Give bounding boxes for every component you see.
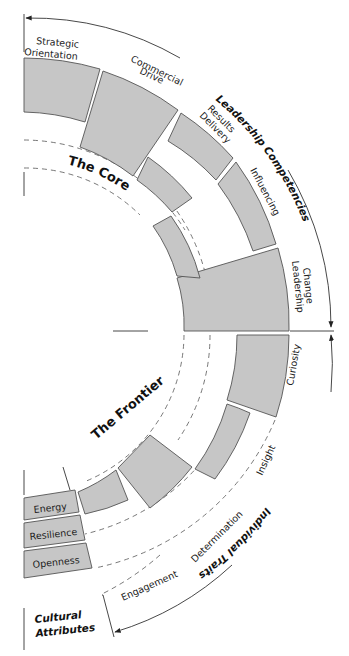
block-strategic-orientation xyxy=(24,58,100,122)
traits-arrow-upper xyxy=(331,335,332,392)
competency-wheel-diagram: Leadership Competencies Individual Trait… xyxy=(0,0,349,656)
block-frontier-main xyxy=(118,435,192,508)
label-the-frontier: The Frontier xyxy=(88,373,167,443)
block-curiosity xyxy=(227,335,289,417)
block-core-inner-1 xyxy=(137,157,192,212)
frontier-divider-line xyxy=(63,467,70,490)
block-insight xyxy=(195,404,250,479)
label-determination: Determination xyxy=(189,508,245,564)
label-insight: Insight xyxy=(254,443,278,477)
frontier-dashed-arc-outer xyxy=(178,335,210,440)
block-frontier-small xyxy=(78,470,128,514)
cultural-bracket xyxy=(102,595,114,637)
label-engagement: Engagement xyxy=(119,568,179,603)
block-core-inner-2 xyxy=(153,216,200,278)
